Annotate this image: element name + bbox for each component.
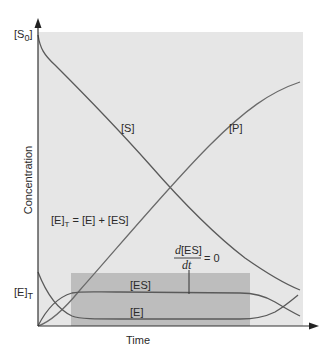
x-axis-title: Time: [126, 334, 150, 346]
svg-text:d[ES]: d[ES]: [175, 243, 202, 257]
s-label: [S]: [121, 122, 134, 134]
e-label: [E]: [130, 306, 143, 318]
es-label: [ES]: [130, 279, 151, 291]
y-label-s0: [S0]: [14, 28, 32, 43]
y-axis-arrow-icon: [35, 18, 42, 28]
y-label-et: [E]T: [14, 286, 33, 301]
y-axis-title: Concentration: [22, 146, 34, 215]
p-label: [P]: [229, 122, 242, 134]
steady-state-region: [71, 273, 250, 326]
svg-text:dt: dt: [182, 258, 192, 272]
chart: [S0] [E]T Concentration Time [S] [P] [ES…: [0, 0, 326, 356]
x-axis-arrow-icon: [309, 323, 319, 330]
svg-text:= 0: = 0: [204, 252, 220, 264]
